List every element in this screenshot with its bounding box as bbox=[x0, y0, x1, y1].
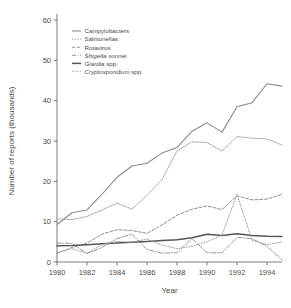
legend: CampylobactersSalmonellasRotavirusShigel… bbox=[72, 27, 143, 75]
legend-label: Campylobacters bbox=[85, 27, 130, 34]
y-axis-label: Number of reports (thousands) bbox=[7, 86, 16, 195]
legend-item[interactable]: Salmonellas bbox=[72, 35, 118, 42]
legend-item[interactable]: Campylobacters bbox=[72, 27, 129, 34]
legend-label: Rotavirus bbox=[85, 44, 111, 51]
x-tick-label: 1992 bbox=[229, 268, 246, 277]
y-tick-label: 20 bbox=[43, 177, 51, 186]
x-tick-label: 1982 bbox=[79, 268, 96, 277]
x-tick-label: 1988 bbox=[169, 268, 186, 277]
series-group bbox=[57, 84, 282, 260]
y-tick-label: 0 bbox=[47, 258, 51, 267]
series-line-salmonellas bbox=[57, 137, 282, 220]
line-chart: 0102030405060198019821984198619881990199… bbox=[0, 0, 291, 308]
x-axis-label: Year bbox=[161, 286, 178, 295]
y-tick-label: 50 bbox=[43, 56, 51, 65]
series-line-giardia-spp bbox=[57, 234, 282, 246]
x-tick-label: 1980 bbox=[49, 268, 66, 277]
legend-item[interactable]: Cryptosporidium spp. bbox=[72, 68, 143, 75]
x-tick-label: 1994 bbox=[259, 268, 276, 277]
legend-item[interactable]: Rotavirus bbox=[72, 44, 111, 51]
y-tick-label: 60 bbox=[43, 16, 51, 25]
x-tick-label: 1990 bbox=[199, 268, 216, 277]
legend-label: Shigella sonnei bbox=[85, 52, 128, 59]
y-axis-ticks: 0102030405060 bbox=[43, 16, 57, 267]
x-axis-ticks: 19801982198419861988199019921994 bbox=[49, 262, 276, 277]
x-tick-label: 1986 bbox=[139, 268, 156, 277]
series-line-campylobacters bbox=[57, 84, 282, 225]
y-tick-label: 10 bbox=[43, 217, 51, 226]
legend-item[interactable]: Giardia spp. bbox=[72, 60, 118, 67]
y-tick-label: 30 bbox=[43, 137, 51, 146]
legend-label: Cryptosporidium spp. bbox=[85, 68, 144, 75]
y-tick-label: 40 bbox=[43, 96, 51, 105]
legend-label: Salmonellas bbox=[85, 35, 119, 42]
legend-label: Giardia spp. bbox=[85, 60, 119, 67]
chart-figure: 0102030405060198019821984198619881990199… bbox=[0, 0, 291, 308]
x-tick-label: 1984 bbox=[109, 268, 126, 277]
legend-item[interactable]: Shigella sonnei bbox=[72, 52, 127, 59]
